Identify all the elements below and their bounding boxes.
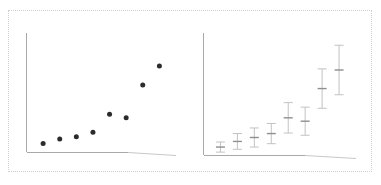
- figure-root: [0, 0, 381, 185]
- scatter-point: [107, 112, 112, 117]
- errorbar-item: [335, 45, 344, 95]
- scatter-point: [41, 141, 46, 146]
- errorbar-item: [267, 123, 276, 143]
- scatter-point: [157, 63, 162, 68]
- right-x-axis-spine-tail: [305, 156, 356, 159]
- scatter-point: [57, 137, 62, 142]
- scatter-point: [74, 134, 79, 139]
- left-x-axis-spine-tail: [128, 153, 176, 156]
- left-scatter-point-group: [41, 63, 162, 146]
- scatter-point: [140, 83, 145, 88]
- errorbar-item: [250, 128, 259, 147]
- right-errorbar-panel: [190, 0, 381, 185]
- right-errorbar-group: [216, 45, 344, 152]
- errorbar-item: [233, 134, 242, 150]
- errorbar-item: [301, 107, 310, 135]
- errorbar-item: [318, 69, 327, 108]
- errorbar-item: [284, 103, 293, 133]
- scatter-point: [124, 115, 129, 120]
- scatter-point: [90, 130, 95, 135]
- errorbar-item: [216, 142, 225, 152]
- left-scatter-plot-area: [0, 0, 190, 185]
- left-scatter-panel: [0, 0, 190, 185]
- right-errorbar-plot-area: [190, 0, 381, 185]
